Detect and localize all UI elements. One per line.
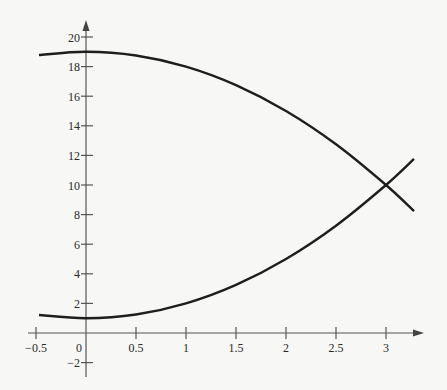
x-tick-label: 1.5 <box>229 341 244 355</box>
y-tick-label: 2 <box>74 297 80 311</box>
chart-canvas: −0.500.511.522.53 −22468101214161820 <box>0 0 447 390</box>
x-tick-label: 0 <box>76 341 82 355</box>
x-ticks: −0.500.511.522.53 <box>25 327 389 355</box>
y-tick-label: 10 <box>68 179 80 193</box>
x-tick-label: 1 <box>183 341 189 355</box>
upper-curve <box>39 52 414 211</box>
y-tick-label: 12 <box>68 149 80 163</box>
y-tick-label: 8 <box>74 208 80 222</box>
lower-curve <box>39 159 414 318</box>
y-tick-label: 4 <box>74 267 80 281</box>
y-tick-label: 6 <box>74 238 80 252</box>
x-tick-label: 0.5 <box>129 341 144 355</box>
x-tick-label: 2.5 <box>329 341 344 355</box>
x-tick-label: 2 <box>283 341 289 355</box>
x-tick-label: 3 <box>383 341 389 355</box>
y-axis-arrow-icon <box>83 20 90 31</box>
axes <box>28 20 424 377</box>
y-tick-label: 20 <box>68 31 80 45</box>
y-tick-label: 14 <box>68 119 80 133</box>
y-tick-label: −2 <box>67 356 80 370</box>
x-axis-arrow-icon <box>413 330 424 337</box>
curves <box>39 52 414 318</box>
y-tick-label: 16 <box>68 90 80 104</box>
chart: −0.500.511.522.53 −22468101214161820 <box>0 0 447 390</box>
y-tick-label: 18 <box>68 60 80 74</box>
x-tick-label: −0.5 <box>25 341 47 355</box>
